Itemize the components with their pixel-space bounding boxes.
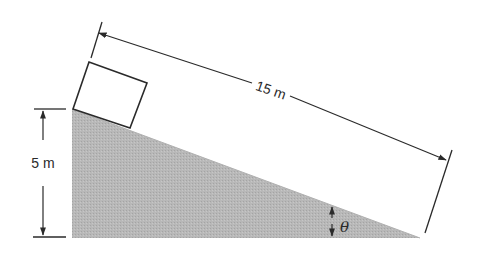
height-label: 5 m	[31, 155, 54, 171]
inclined-plane-diagram: 5 m 15 m θ	[0, 0, 485, 254]
height-dimension: 5 m	[31, 109, 66, 237]
angle-label: θ	[340, 218, 349, 236]
length-label: 15 m	[254, 77, 289, 102]
diagram-canvas: 5 m 15 m θ	[0, 0, 485, 254]
